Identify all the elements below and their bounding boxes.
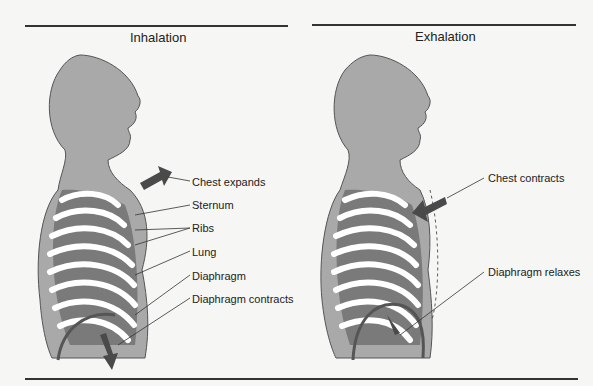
label-diaphragm: Diaphragm xyxy=(192,270,246,282)
respiration-diagram xyxy=(0,0,593,386)
label-sternum: Sternum xyxy=(192,199,234,211)
exhalation-figure xyxy=(321,55,484,360)
label-lung: Lung xyxy=(192,246,216,258)
label-chest-contracts: Chest contracts xyxy=(488,172,564,184)
label-ribs: Ribs xyxy=(192,222,214,234)
label-diaphragm-contracts: Diaphragm contracts xyxy=(192,293,294,305)
label-chest-expands: Chest expands xyxy=(192,176,265,188)
label-diaphragm-relaxes: Diaphragm relaxes xyxy=(488,266,580,278)
inhalation-figure xyxy=(38,55,190,370)
